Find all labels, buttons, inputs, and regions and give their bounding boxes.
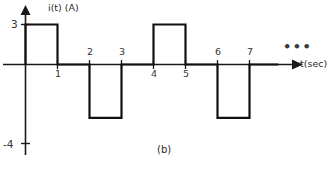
y-axis-label: i(t) (A) bbox=[48, 3, 79, 13]
x-tick-label-3: 3 bbox=[119, 47, 125, 57]
figure-caption: (b) bbox=[157, 145, 171, 155]
x-tick-label-6: 6 bbox=[215, 47, 221, 57]
y-tick-label-minus-4: -4 bbox=[3, 139, 13, 150]
x-axis-label: t(sec) bbox=[300, 59, 327, 69]
x-tick-label-5: 5 bbox=[183, 69, 189, 79]
x-tick-label-2: 2 bbox=[87, 47, 93, 57]
y-tick-label-3: 3 bbox=[11, 19, 18, 30]
x-tick-label-1: 1 bbox=[55, 69, 61, 79]
waveform-figure: i(t) (A) t(sec) 3 -4 1 2 3 4 5 6 7 ••• (… bbox=[0, 0, 328, 170]
x-tick-label-7: 7 bbox=[247, 47, 253, 57]
continuation-ellipsis: ••• bbox=[283, 40, 312, 53]
x-tick-label-4: 4 bbox=[151, 69, 157, 79]
y-axis-arrowhead bbox=[21, 5, 31, 15]
